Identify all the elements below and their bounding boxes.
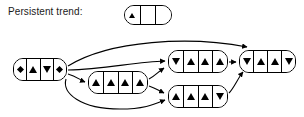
up-triangle-icon: [136, 79, 144, 86]
pattern-cell: [282, 51, 295, 72]
down-triangle-icon: [285, 58, 293, 65]
down-triangle-icon: [43, 66, 51, 73]
edge-left-to-mid-upper: [68, 61, 165, 70]
legend-pattern-node: [124, 5, 172, 25]
pattern-cell: [169, 51, 184, 72]
node-mid-bottom[interactable]: [168, 85, 228, 108]
diamond-icon: [17, 66, 24, 73]
pattern-cell: [156, 6, 171, 24]
pattern-cell: [268, 51, 282, 72]
pattern-cell: [89, 72, 104, 93]
up-triangle-icon: [216, 58, 224, 65]
pattern-cell: [199, 51, 214, 72]
node-left[interactable]: [13, 58, 67, 81]
up-triangle-icon: [29, 66, 37, 73]
up-triangle-icon: [187, 93, 195, 100]
edge-mid-bottom-to-right: [229, 72, 243, 93]
pattern-cell: [54, 59, 66, 80]
down-triangle-icon: [172, 58, 180, 65]
up-triangle-icon: [121, 79, 129, 86]
pattern-cell: [104, 72, 119, 93]
pattern-cell: [119, 72, 134, 93]
pattern-cell: [240, 51, 254, 72]
pattern-cell: [254, 51, 268, 72]
edge-mid-lower-to-mid-upper: [149, 68, 164, 79]
up-triangle-icon: [201, 58, 209, 65]
diamond-icon: [56, 66, 63, 73]
up-triangle-icon: [172, 93, 180, 100]
down-triangle-icon: [216, 93, 224, 100]
pattern-cell: [169, 86, 184, 107]
pattern-cell: [41, 59, 54, 80]
pattern-cell: [213, 86, 227, 107]
pattern-cell: [133, 72, 147, 93]
edge-mid-lower-to-mid-bottom: [149, 86, 164, 93]
up-triangle-icon: [257, 58, 265, 65]
up-triangle-icon: [107, 79, 115, 86]
up-triangle-icon: [271, 58, 279, 65]
up-triangle-icon: [201, 93, 209, 100]
up-triangle-icon: [129, 13, 135, 18]
node-mid-lower[interactable]: [88, 71, 148, 94]
pattern-cell: [141, 6, 157, 24]
pattern-cell: [125, 6, 141, 24]
pattern-cell: [14, 59, 27, 80]
pattern-cell: [199, 86, 214, 107]
pattern-cell: [184, 51, 199, 72]
pattern-cell: [213, 51, 227, 72]
node-right[interactable]: [239, 50, 296, 73]
down-triangle-icon: [243, 58, 251, 65]
edge-left-to-mid-lower: [68, 74, 85, 82]
up-triangle-icon: [92, 79, 100, 86]
pattern-cell: [184, 86, 199, 107]
up-triangle-icon: [187, 58, 195, 65]
node-mid-upper[interactable]: [168, 50, 228, 73]
diagram-canvas: Persistent trend:: [0, 0, 304, 117]
pattern-cell: [27, 59, 40, 80]
